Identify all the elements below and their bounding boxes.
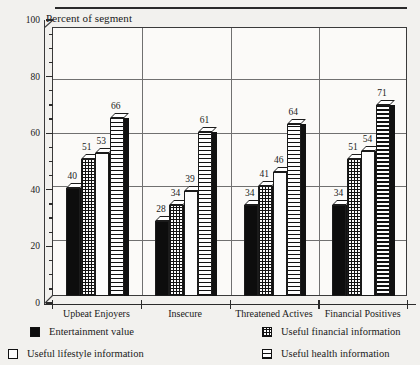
bar-value-label: 34 xyxy=(171,188,181,198)
bar: 66 xyxy=(110,118,124,296)
x-tick-2 xyxy=(230,300,231,309)
y-tick-label-20: 20 xyxy=(31,241,41,251)
bar: 39 xyxy=(184,191,198,296)
bar-side-face xyxy=(124,118,129,296)
bar-side-face xyxy=(212,132,217,296)
x-tick-4 xyxy=(407,300,408,309)
bar: 61 xyxy=(198,132,212,296)
bar-value-label: 40 xyxy=(67,171,77,181)
bar: 34 xyxy=(169,205,183,296)
bar-face xyxy=(110,118,124,296)
legend-item[interactable]: Useful health information xyxy=(262,348,389,359)
bar-face xyxy=(332,205,346,296)
y-tick-label-0: 0 xyxy=(35,298,40,308)
bar: 54 xyxy=(361,151,375,296)
bar: 71 xyxy=(376,105,390,296)
bar-face xyxy=(198,132,212,296)
bar: 34 xyxy=(244,205,258,296)
bar-face xyxy=(155,221,169,296)
bar-value-label: 53 xyxy=(96,136,106,146)
hlines-swatch-icon xyxy=(262,349,272,359)
bar-side-face xyxy=(301,124,306,296)
bar-value-label: 41 xyxy=(259,169,269,179)
legend-item[interactable]: Useful lifestyle information xyxy=(8,348,144,359)
bar: 41 xyxy=(258,186,272,296)
bar-face xyxy=(169,205,183,296)
grid-swatch-icon xyxy=(262,327,272,337)
bar-face xyxy=(347,159,361,296)
bar-face xyxy=(95,153,109,296)
bar-value-label: 46 xyxy=(274,155,284,165)
bar: 53 xyxy=(95,153,109,296)
bar-value-label: 39 xyxy=(185,174,195,184)
bar-value-label: 51 xyxy=(82,142,92,152)
legend-item[interactable]: Entertainment value xyxy=(30,326,134,337)
bar-face xyxy=(66,188,80,296)
y-axis-caption: Percent of segment xyxy=(46,12,132,24)
bar-value-label: 71 xyxy=(377,88,387,98)
legend-label: Entertainment value xyxy=(49,326,134,337)
bar-value-label: 66 xyxy=(111,101,121,111)
bar-series-layer: 40515366283439613441466434515471 xyxy=(52,27,407,296)
bar-face xyxy=(287,124,301,296)
bar-value-label: 54 xyxy=(363,134,373,144)
bar: 51 xyxy=(81,159,95,296)
bar-value-label: 51 xyxy=(348,142,358,152)
chart-legend: Entertainment valueUseful financial info… xyxy=(0,324,420,365)
bar-side-face xyxy=(390,105,395,296)
x-tick-3 xyxy=(318,300,319,309)
bar: 40 xyxy=(66,188,80,296)
bar: 46 xyxy=(273,172,287,296)
bar: 64 xyxy=(287,124,301,296)
dots-swatch-icon xyxy=(8,349,18,359)
bar-face xyxy=(258,186,272,296)
legend-label: Useful financial information xyxy=(281,326,401,337)
bar-face xyxy=(184,191,198,296)
y-tick-label-100: 100 xyxy=(26,15,40,25)
category-label-1: Upbeat Enjoyers xyxy=(63,308,130,319)
top-divider-rule xyxy=(55,7,407,9)
bar-value-label: 34 xyxy=(334,188,344,198)
x-tick-1 xyxy=(141,300,142,309)
bar-value-label: 34 xyxy=(245,188,255,198)
bar-face xyxy=(273,172,287,296)
bar-face xyxy=(361,151,375,296)
y-tick-label-80: 80 xyxy=(31,72,41,82)
bar: 51 xyxy=(347,159,361,296)
bar: 28 xyxy=(155,221,169,296)
y-tick-100 xyxy=(46,19,53,20)
category-label-2: Insecure xyxy=(168,308,202,319)
y-tick-label-60: 60 xyxy=(31,128,41,138)
bar: 34 xyxy=(332,205,346,296)
category-label-4: Financial Positives xyxy=(325,308,401,319)
legend-label: Useful lifestyle information xyxy=(27,348,144,359)
chart-figure: Percent of segment 020406080100 40515366… xyxy=(0,0,420,365)
bar-value-label: 61 xyxy=(200,115,210,125)
bar-face xyxy=(81,159,95,296)
bar-value-label: 64 xyxy=(288,107,298,117)
y-tick-label-40: 40 xyxy=(31,185,41,195)
category-label-3: Threatened Actives xyxy=(235,308,312,319)
bar-face xyxy=(376,105,390,296)
legend-label: Useful health information xyxy=(281,348,389,359)
bar-value-label: 28 xyxy=(156,204,166,214)
solid-swatch-icon xyxy=(30,327,40,337)
x-tick-0 xyxy=(52,300,53,309)
legend-item[interactable]: Useful financial information xyxy=(262,326,401,337)
bar-face xyxy=(244,205,258,296)
